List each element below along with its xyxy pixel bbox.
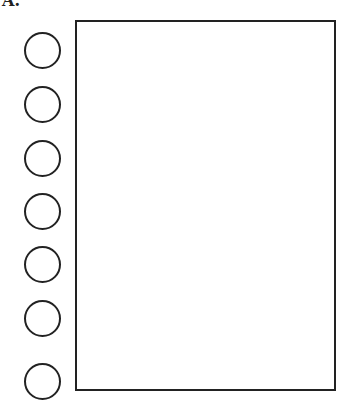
circle-7 — [24, 363, 61, 400]
rectangle-panel — [75, 20, 336, 391]
circle-1 — [24, 32, 61, 69]
circle-2 — [24, 86, 61, 123]
circle-5 — [24, 246, 61, 283]
circle-4 — [24, 193, 61, 230]
figure-label: A. — [2, 0, 20, 10]
circle-3 — [24, 140, 61, 177]
circle-6 — [24, 300, 61, 337]
